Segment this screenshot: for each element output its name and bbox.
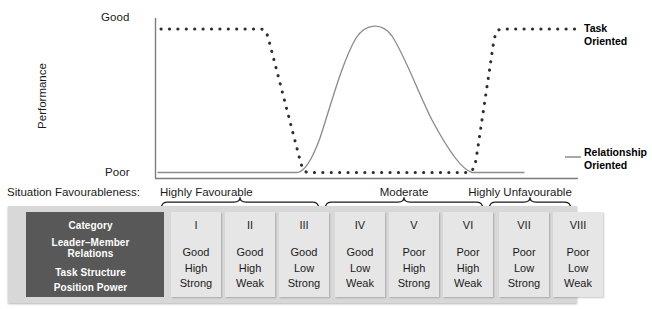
column-values: Poor High Strong: [389, 245, 439, 292]
value-leader-member-relations: Poor: [389, 245, 439, 261]
column-values: Good High Strong: [171, 245, 221, 292]
column-values: Good High Weak: [225, 245, 275, 292]
column-roman-numeral: VIII: [553, 219, 603, 231]
table-column-4: IV Good Low Weak: [335, 212, 385, 297]
column-values: Poor Low Strong: [499, 245, 549, 292]
value-task-structure: Low: [335, 261, 385, 277]
row-label-leader-member-line1: Leader–Member: [26, 237, 155, 249]
task-oriented-curve: [161, 29, 578, 173]
column-values: Good Low Weak: [335, 245, 385, 292]
value-position-power: Strong: [279, 276, 329, 292]
value-leader-member-relations: Poor: [499, 245, 549, 261]
value-position-power: Weak: [443, 276, 493, 292]
row-label-task-structure: Task Structure: [26, 267, 155, 279]
value-leader-member-relations: Good: [225, 245, 275, 261]
value-leader-member-relations: Good: [171, 245, 221, 261]
situation-favourableness-label: Situation Favourableness:: [7, 186, 140, 198]
brace-label-highly-favourable: Highly Favourable: [160, 186, 320, 198]
relationship-oriented-curve: [158, 26, 524, 172]
value-task-structure: Low: [499, 261, 549, 277]
task-oriented-label: Task Oriented: [584, 22, 627, 47]
contingency-table: Category Leader–Member Relations Task St…: [8, 206, 577, 303]
y-axis-bottom-label: Poor: [105, 166, 130, 178]
column-values: Poor High Weak: [443, 245, 493, 292]
value-position-power: Strong: [171, 276, 221, 292]
row-label-leader-member-relations: Leader–Member Relations: [26, 237, 155, 260]
value-task-structure: High: [389, 261, 439, 277]
column-roman-numeral: VI: [443, 219, 493, 231]
value-leader-member-relations: Good: [279, 245, 329, 261]
value-leader-member-relations: Poor: [553, 245, 603, 261]
value-position-power: Weak: [553, 276, 603, 292]
table-column-6: VI Poor High Weak: [443, 212, 493, 297]
task-oriented-label-line2: Oriented: [584, 35, 627, 48]
brace-label-highly-unfavourable: Highly Unfavourable: [460, 186, 580, 198]
relationship-oriented-label: Relationship Oriented: [584, 146, 647, 171]
figure-root: Good Poor Performance Task Oriented Rela…: [0, 0, 652, 309]
row-label-position-power: Position Power: [26, 282, 155, 294]
value-position-power: Strong: [499, 276, 549, 292]
table-column-3: III Good Low Strong: [279, 212, 329, 297]
column-roman-numeral: VII: [499, 219, 549, 231]
task-oriented-label-line1: Task: [584, 22, 627, 35]
value-position-power: Strong: [389, 276, 439, 292]
column-roman-numeral: III: [279, 219, 329, 231]
value-leader-member-relations: Poor: [443, 245, 493, 261]
table-column-8: VIII Poor Low Weak: [553, 212, 603, 297]
value-task-structure: Low: [279, 261, 329, 277]
table-column-2: II Good High Weak: [225, 212, 275, 297]
table-column-5: V Poor High Strong: [389, 212, 439, 297]
column-roman-numeral: I: [171, 219, 221, 231]
column-values: Good Low Strong: [279, 245, 329, 292]
value-position-power: Weak: [335, 276, 385, 292]
value-task-structure: Low: [553, 261, 603, 277]
value-position-power: Weak: [225, 276, 275, 292]
relationship-oriented-label-line1: Relationship: [584, 146, 647, 159]
value-task-structure: High: [225, 261, 275, 277]
column-roman-numeral: IV: [335, 219, 385, 231]
relationship-oriented-label-line2: Oriented: [584, 159, 647, 172]
table-column-1: I Good High Strong: [171, 212, 221, 297]
y-axis-title: Performance: [36, 36, 48, 156]
row-label-leader-member-line2: Relations: [26, 248, 155, 260]
y-axis-top-label: Good: [101, 11, 130, 23]
table-row-labels-panel: Category Leader–Member Relations Task St…: [26, 212, 164, 297]
value-task-structure: High: [171, 261, 221, 277]
column-roman-numeral: II: [225, 219, 275, 231]
value-task-structure: High: [443, 261, 493, 277]
table-column-7: VII Poor Low Strong: [499, 212, 549, 297]
column-values: Poor Low Weak: [553, 245, 603, 292]
value-leader-member-relations: Good: [335, 245, 385, 261]
column-roman-numeral: V: [389, 219, 439, 231]
row-label-category: Category: [26, 220, 155, 232]
